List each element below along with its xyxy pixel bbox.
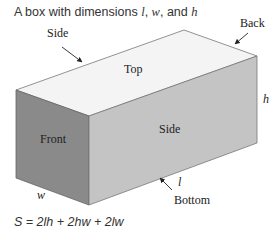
surface-area-formula: S = 2lh + 2hw + 2lw (14, 215, 123, 229)
back-arrow (235, 33, 248, 44)
label-front: Front (40, 132, 67, 146)
label-w: w (37, 188, 45, 202)
label-h: h (263, 92, 269, 106)
box-diagram: Side Back Top Front Side Bottom h l w (0, 0, 278, 237)
label-top: Top (124, 62, 143, 76)
side-arrow (62, 47, 82, 62)
label-bottom: Bottom (174, 193, 211, 207)
label-side: Side (159, 122, 180, 136)
label-side-top: Side (47, 26, 68, 40)
label-back: Back (240, 16, 265, 30)
label-l: l (178, 175, 182, 189)
bottom-arrow (160, 178, 172, 190)
